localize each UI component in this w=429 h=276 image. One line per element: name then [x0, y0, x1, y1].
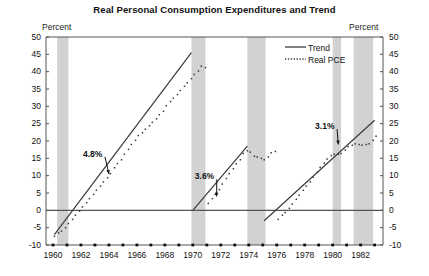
y-tick-label: 35 — [389, 84, 411, 94]
y-tick-label: -5 — [389, 222, 411, 232]
legend-marks — [285, 47, 306, 59]
x-tick-mark — [317, 244, 320, 247]
y-tick-label: 5 — [19, 188, 41, 198]
pce-point — [298, 194, 300, 196]
pce-point — [107, 177, 109, 179]
x-tick-mark — [289, 244, 292, 247]
y-tick-label: 30 — [389, 101, 411, 111]
pce-point — [249, 151, 251, 153]
pce-point — [226, 178, 228, 180]
pce-point — [194, 74, 196, 76]
pce-point — [373, 140, 375, 142]
pce-point — [72, 219, 74, 221]
y-tick-label: 45 — [389, 49, 411, 59]
pce-point — [219, 189, 221, 191]
x-tick-mark — [247, 244, 250, 247]
pce-point — [375, 135, 377, 137]
x-tick-mark — [108, 244, 111, 247]
pce-point — [270, 152, 272, 154]
pce-point — [312, 176, 314, 178]
recession-band — [191, 37, 205, 245]
pce-point — [191, 78, 193, 80]
x-tick-mark — [261, 244, 264, 247]
y-tick-label: 25 — [19, 118, 41, 128]
y-tick-label: -10 — [19, 240, 41, 250]
x-tick-mark — [219, 244, 222, 247]
x-tick-mark — [205, 244, 208, 247]
trend-segment — [54, 53, 191, 235]
pce-point — [240, 159, 242, 161]
x-tick-mark — [163, 244, 166, 247]
recession-band — [247, 37, 265, 245]
pce-point — [242, 153, 244, 155]
y-tick-label: 20 — [389, 136, 411, 146]
pce-point — [359, 144, 361, 146]
pce-point — [345, 149, 347, 151]
pce-point — [166, 105, 168, 107]
pce-point — [228, 173, 230, 175]
pce-point — [305, 185, 307, 187]
pce-point — [124, 153, 126, 155]
pce-point — [180, 90, 182, 92]
x-tick-mark — [94, 244, 97, 247]
pce-point — [326, 158, 328, 160]
axes — [46, 37, 383, 246]
pce-point — [296, 199, 298, 201]
pce-point — [142, 132, 144, 134]
pce-point — [54, 236, 56, 238]
pce-point — [131, 144, 133, 146]
pce-point — [100, 185, 102, 187]
pce-point — [333, 153, 335, 155]
pce-point — [291, 203, 293, 205]
x-tick-mark — [66, 244, 69, 247]
pce-point — [198, 70, 200, 72]
pce-point — [128, 149, 130, 151]
recession-band — [57, 37, 68, 245]
recession-bands — [57, 37, 373, 245]
pce-point — [361, 144, 363, 146]
pce-point — [86, 202, 88, 204]
pce-point — [368, 143, 370, 145]
pce-point — [235, 163, 237, 165]
y-tick-label: 0 — [389, 205, 411, 215]
pce-point — [212, 198, 214, 200]
pce-point — [159, 114, 161, 116]
recession-band — [354, 37, 374, 245]
pce-point — [187, 82, 189, 84]
pce-point — [221, 183, 223, 185]
pce-point — [303, 190, 305, 192]
pce-point — [145, 129, 147, 131]
trend-series — [54, 53, 374, 235]
pce-point — [261, 158, 263, 160]
growth-rate-annotation: 4.8% — [83, 149, 102, 159]
pce-point — [135, 140, 137, 142]
pce-point — [338, 153, 340, 155]
growth-rate-annotation: 3.6% — [195, 171, 214, 181]
legend-label-trend: Trend — [308, 43, 330, 53]
growth-rate-annotation: 3.1% — [315, 121, 334, 131]
x-tick-mark — [122, 244, 125, 247]
pce-point — [233, 168, 235, 170]
pce-point — [254, 156, 256, 158]
pce-point — [324, 162, 326, 164]
y-tick-label: 40 — [19, 66, 41, 76]
y-tick-label: 30 — [19, 101, 41, 111]
plot-area — [0, 0, 429, 276]
y-tick-label: 15 — [389, 153, 411, 163]
pce-point — [247, 150, 249, 152]
legend-label-real-pce: Real PCE — [308, 55, 345, 65]
pce-point — [121, 159, 123, 161]
x-tick-mark — [373, 244, 376, 247]
y-tick-label: 5 — [389, 188, 411, 198]
pce-point — [156, 118, 158, 120]
pce-point — [89, 198, 91, 200]
x-tick-mark — [80, 244, 83, 247]
chart-container: Real Personal Consumption Expenditures a… — [0, 0, 429, 276]
x-tick-mark — [345, 244, 348, 247]
pce-point — [61, 230, 63, 232]
pce-point — [114, 167, 116, 169]
pce-point — [268, 156, 270, 158]
pce-point — [277, 219, 279, 221]
y-tick-label: 10 — [389, 170, 411, 180]
pce-point — [79, 210, 81, 212]
